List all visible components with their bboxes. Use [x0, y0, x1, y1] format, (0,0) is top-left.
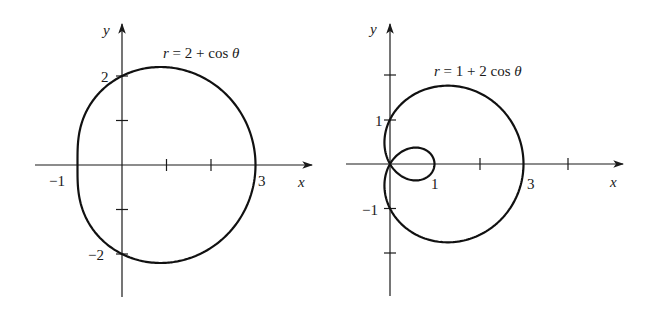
right-y-axis-label: y — [368, 21, 377, 37]
left-tick-label-yneg2: −2 — [88, 247, 104, 263]
left-tick-label-y2: 2 — [101, 69, 109, 85]
figure: y x r = 2 + cos θ −1 3 2 −2 y x r = 1 + … — [0, 0, 645, 317]
right-equation-label: r = 1 + 2 cos θ — [434, 63, 522, 79]
right-plot: y x r = 1 + 2 cos θ 1 3 1 −1 — [346, 21, 623, 296]
right-tick-label-1: 1 — [431, 176, 439, 192]
right-x-axis-label: x — [609, 174, 617, 190]
right-tick-label-yneg1: −1 — [362, 202, 378, 218]
right-tick-label-3: 3 — [527, 176, 535, 192]
left-y-axis-label: y — [101, 22, 110, 38]
left-tick-label-neg1: −1 — [49, 173, 65, 189]
left-plot: y x r = 2 + cos θ −1 3 2 −2 — [35, 22, 312, 297]
right-tick-label-y1: 1 — [375, 113, 383, 129]
left-tick-label-3: 3 — [258, 173, 266, 189]
left-equation-label: r = 2 + cos θ — [163, 45, 240, 61]
left-x-axis-label: x — [297, 174, 305, 190]
